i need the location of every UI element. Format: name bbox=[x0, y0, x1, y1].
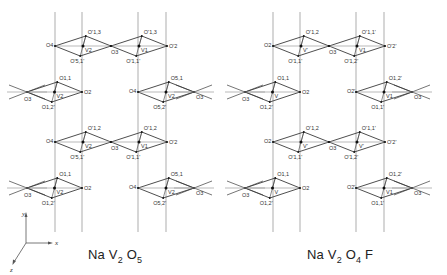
row0-octahedron-a-bond bbox=[301, 36, 304, 46]
caption-na: Na bbox=[307, 247, 328, 262]
row2-octahedron-b-label-center: V' bbox=[359, 143, 364, 149]
row2-label-shared-apex: O3 bbox=[111, 145, 118, 151]
caption-na: Na bbox=[88, 247, 109, 262]
row1-octahedron-left-label-center: V bbox=[275, 93, 279, 99]
row0-octahedron-a-label-center: V' bbox=[303, 47, 308, 53]
row0-octahedron-a-label-left: O2 bbox=[264, 42, 271, 48]
row0-octahedron-b-label-right: O'2 bbox=[169, 43, 177, 49]
row1-octahedron-left-label-right: O2 bbox=[84, 89, 91, 95]
row0-octahedron-b-oxygen-atom bbox=[135, 55, 137, 57]
row0-octahedron-b-edge bbox=[142, 36, 167, 46]
row3-octahedron-left-label-right: O2 bbox=[302, 185, 309, 191]
row3-octahedron-right-label-left: O2' bbox=[347, 184, 355, 190]
row0-octahedron-a-edge bbox=[86, 36, 111, 46]
row0-octahedron-b-oxygen-atom bbox=[384, 45, 386, 47]
row0-octahedron-a-oxygen-atom bbox=[85, 35, 87, 37]
row0-octahedron-b-edge bbox=[111, 36, 142, 46]
caption-nav2o5: Na V2 O5 bbox=[88, 247, 142, 265]
row3-octahedron-right-label-center: V1 bbox=[386, 189, 393, 195]
row1-octahedron-right-bond bbox=[166, 82, 169, 92]
x-axis-label: x bbox=[54, 239, 59, 247]
z-axis-line bbox=[14, 243, 26, 262]
row2-octahedron-b-oxygen-atom bbox=[353, 151, 355, 153]
row1-octahedron-right-oxygen-atom bbox=[386, 81, 388, 83]
row3-octahedron-left-oxygen-atom bbox=[51, 197, 53, 199]
row1-octahedron-left-oxygen-atom bbox=[299, 91, 301, 93]
row1-octahedron-right-label-left: O4 bbox=[129, 88, 136, 94]
row2-octahedron-b-label-bottom: O'1,2' bbox=[344, 154, 358, 160]
row1-octahedron-left-label-right: O2 bbox=[302, 89, 309, 95]
row3-octahedron-right-label-bottom: O1,1' bbox=[371, 200, 384, 206]
row0-octahedron-b-label-top: O'1,1' bbox=[362, 29, 376, 35]
row2-octahedron-a-edge bbox=[304, 132, 329, 142]
row3-octahedron-right-label-center: V2 bbox=[168, 189, 175, 195]
row0-octahedron-b-label-right: O'2' bbox=[387, 43, 396, 49]
row0-octahedron-b-label-top: O'1,3 bbox=[144, 29, 157, 35]
row0-octahedron-b-oxygen-atom bbox=[359, 35, 361, 37]
row3-octahedron-right-edge bbox=[138, 178, 169, 188]
row2-octahedron-b-edge bbox=[329, 132, 360, 142]
row2-octahedron-a-edge bbox=[273, 132, 304, 142]
row0-octahedron-a-edge bbox=[304, 36, 329, 46]
row0-octahedron-a-label-left: O4 bbox=[46, 42, 53, 48]
caption-o: O bbox=[123, 247, 137, 262]
row0-octahedron-a-oxygen-atom bbox=[272, 45, 274, 47]
row1-octahedron-left-edge bbox=[275, 82, 300, 92]
row0-octahedron-a-edge bbox=[273, 46, 298, 56]
row0-octahedron-a-label-bottom: O'1,1' bbox=[288, 58, 302, 64]
row1-label-left-apex: O3 bbox=[242, 96, 249, 102]
row2-octahedron-a-edge bbox=[273, 142, 298, 152]
row0-octahedron-b-oxygen-atom bbox=[141, 35, 143, 37]
row1-octahedron-left-edge bbox=[57, 82, 82, 92]
row2-octahedron-a-edge bbox=[86, 132, 111, 142]
row0-octahedron-a-oxygen-atom bbox=[297, 55, 299, 57]
row0-octahedron-a-oxygen-atom bbox=[54, 45, 56, 47]
caption-v: V bbox=[328, 247, 337, 262]
row0-octahedron-a-oxygen-atom bbox=[303, 35, 305, 37]
row0-octahedron-a-label-top: O'1,2 bbox=[306, 29, 319, 35]
row2-octahedron-b-label-top: O'1,2 bbox=[144, 125, 157, 131]
row3-octahedron-left-edge bbox=[275, 178, 300, 188]
row0-octahedron-b-edge bbox=[360, 36, 385, 46]
row1-octahedron-right-label-bottom: O1,1' bbox=[371, 104, 384, 110]
row2-octahedron-b-oxygen-atom bbox=[141, 131, 143, 133]
row2-octahedron-a-edge bbox=[55, 142, 80, 152]
row2-octahedron-a-oxygen-atom bbox=[85, 131, 87, 133]
row1-octahedron-right-edge bbox=[138, 92, 163, 102]
row2-octahedron-b-oxygen-atom bbox=[359, 131, 361, 133]
row1-octahedron-right-label-center: V2 bbox=[168, 93, 175, 99]
row2-octahedron-a-bond bbox=[83, 132, 86, 142]
row0-octahedron-b-oxygen-atom bbox=[353, 55, 355, 57]
row0-octahedron-b-oxygen-atom bbox=[110, 45, 112, 47]
row3-label-left-apex: O3 bbox=[242, 192, 249, 198]
row3-octahedron-left-label-right: O2 bbox=[84, 185, 91, 191]
row0-octahedron-a-edge bbox=[273, 36, 304, 46]
row0-octahedron-a-edge bbox=[55, 36, 86, 46]
row0-octahedron-a-bond bbox=[83, 36, 86, 46]
row1-octahedron-right-oxygen-atom bbox=[137, 91, 139, 93]
row1-octahedron-left-label-bottom: O1,2' bbox=[42, 104, 55, 110]
row1-octahedron-left-oxygen-atom bbox=[81, 91, 83, 93]
row3-octahedron-right-edge bbox=[356, 188, 381, 198]
coordinate-axes: y x z bbox=[9, 210, 59, 274]
row3-octahedron-left-label-bottom: O1,2' bbox=[42, 200, 55, 206]
row3-octahedron-left-label-center: V2 bbox=[57, 189, 64, 195]
row3-octahedron-left-label-center: V bbox=[275, 189, 279, 195]
row3-octahedron-right-oxygen-atom bbox=[380, 197, 382, 199]
row1-octahedron-right-label-top: O5,1 bbox=[171, 75, 183, 81]
row2-octahedron-a-label-center: V' bbox=[303, 143, 308, 149]
row3-octahedron-right-label-bottom: O5,2' bbox=[153, 200, 166, 206]
row3-octahedron-left-oxygen-atom bbox=[56, 177, 58, 179]
row1-octahedron-right-label-bottom: O5,2' bbox=[153, 104, 166, 110]
row3-octahedron-right-oxygen-atom bbox=[386, 177, 388, 179]
row3-octahedron-left-label-top: O1,1 bbox=[59, 171, 71, 177]
row0-octahedron-a-oxygen-atom bbox=[79, 55, 81, 57]
row1-octahedron-right-oxygen-atom bbox=[162, 101, 164, 103]
row3-octahedron-right-label-top: O1,2' bbox=[389, 171, 402, 177]
row1-octahedron-left-label-top: O1,1 bbox=[59, 75, 71, 81]
row2-octahedron-a-label-left: O4 bbox=[46, 138, 53, 144]
row3-octahedron-left-oxygen-atom bbox=[299, 187, 301, 189]
row1-octahedron-right-label-center: V1 bbox=[386, 93, 393, 99]
row2-octahedron-b-edge bbox=[360, 132, 385, 142]
row2-octahedron-a-oxygen-atom bbox=[303, 131, 305, 133]
